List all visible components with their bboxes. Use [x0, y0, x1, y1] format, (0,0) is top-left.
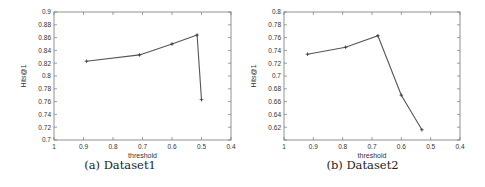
plot-frame — [284, 12, 460, 140]
plus-marker-icon — [306, 52, 310, 56]
x-tick-label: 0.8 — [108, 143, 117, 150]
y-tick-label: 0.62 — [268, 124, 281, 131]
caption-dataset2: (b) Dataset2 — [240, 158, 485, 172]
chart-dataset2: 0.620.640.660.680.70.720.740.760.780.810… — [240, 0, 485, 158]
chart-panel-dataset2: 0.620.640.660.680.70.720.740.760.780.810… — [240, 0, 485, 187]
x-tick-label: 0.4 — [226, 143, 235, 150]
x-tick-label: 0.7 — [138, 143, 147, 150]
x-tick-label: 1 — [52, 143, 56, 150]
x-tick-label: 1 — [282, 143, 286, 150]
y-tick-label: 0.64 — [268, 111, 281, 118]
data-line — [308, 36, 422, 130]
x-tick-label: 0.7 — [367, 143, 376, 150]
y-axis-label: Hits@1 — [20, 64, 27, 87]
y-axis-label: Hits@1 — [250, 64, 257, 87]
y-tick-label: 0.72 — [38, 124, 51, 131]
y-tick-label: 0.72 — [268, 60, 281, 67]
plus-marker-icon — [344, 45, 348, 49]
x-tick-label: 0.6 — [397, 143, 406, 150]
x-tick-label: 0.4 — [455, 143, 464, 150]
y-tick-label: 0.76 — [268, 34, 281, 41]
caption-dataset1: (a) Dataset1 — [0, 158, 240, 172]
y-tick-label: 0.66 — [268, 98, 281, 105]
y-tick-label: 0.78 — [38, 85, 51, 92]
x-tick-label: 0.9 — [79, 143, 88, 150]
chart-panel-dataset1: 0.70.720.740.760.780.80.820.840.860.880.… — [0, 0, 240, 187]
plus-marker-icon — [376, 34, 380, 38]
y-tick-label: 0.7 — [272, 72, 281, 79]
y-tick-label: 0.74 — [268, 47, 281, 54]
y-tick-label: 0.78 — [268, 21, 281, 28]
plus-marker-icon — [195, 33, 199, 37]
y-tick-label: 0.8 — [272, 8, 281, 15]
y-tick-label: 0.88 — [38, 21, 51, 28]
y-tick-label: 0.74 — [38, 111, 51, 118]
plus-marker-icon — [170, 42, 174, 46]
y-tick-label: 0.9 — [42, 8, 51, 15]
y-tick-label: 0.76 — [38, 98, 51, 105]
data-line — [86, 35, 201, 100]
y-tick-label: 0.84 — [38, 47, 51, 54]
plot-frame — [54, 12, 231, 140]
y-tick-label: 0.86 — [38, 34, 51, 41]
plus-marker-icon — [200, 98, 204, 102]
y-tick-label: 0.8 — [42, 72, 51, 79]
x-tick-label: 0.9 — [309, 143, 318, 150]
y-tick-label: 0.7 — [42, 136, 51, 143]
x-tick-label: 0.6 — [167, 143, 176, 150]
chart-dataset1: 0.70.720.740.760.780.80.820.840.860.880.… — [0, 0, 240, 158]
y-tick-label: 0.68 — [268, 85, 281, 92]
x-tick-label: 0.5 — [426, 143, 435, 150]
x-tick-label: 0.5 — [197, 143, 206, 150]
x-tick-label: 0.8 — [338, 143, 347, 150]
y-tick-label: 0.82 — [38, 60, 51, 67]
plus-marker-icon — [138, 53, 142, 57]
plus-marker-icon — [85, 59, 89, 63]
